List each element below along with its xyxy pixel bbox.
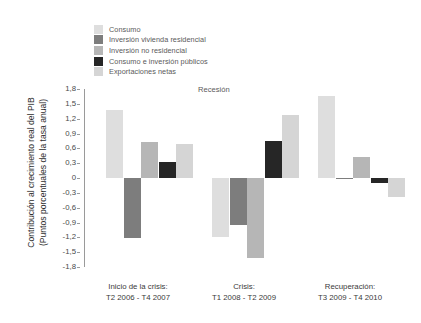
legend-swatch-exportaciones-netas	[94, 67, 103, 76]
bar-5-group-2	[282, 115, 299, 178]
y-axis-tick-mark	[77, 148, 80, 149]
legend-item-inversion-vivienda-residencial: Inversión vivienda residencial	[94, 35, 314, 46]
legend-item-consumo-e-inversion-publicos: Consumo e inversión públicos	[94, 56, 314, 67]
y-axis-tick-label: -1,5	[63, 248, 76, 256]
bar-3-group-2	[247, 178, 264, 258]
y-axis-tick-mark	[77, 119, 80, 120]
bar-5-group-3	[388, 178, 405, 197]
category-label-recuperacion: Recuperación: T3 2009 - T4 2010	[296, 281, 404, 303]
y-axis-tick-label: -1,2	[63, 233, 76, 241]
y-axis-tick-label: 0,3	[65, 159, 76, 167]
bar-4-group-3	[371, 178, 388, 183]
bar-3-group-3	[353, 157, 370, 178]
bar-4-group-1	[159, 162, 176, 178]
bar-5-group-1	[176, 144, 193, 178]
y-axis-tick-mark	[77, 267, 80, 268]
y-axis-tick-mark	[77, 134, 80, 135]
plot-area	[84, 89, 400, 267]
bar-1-group-2	[212, 178, 229, 237]
chart-legend: Consumo Inversión vivienda residencial I…	[94, 24, 314, 77]
bar-1-group-3	[318, 96, 335, 178]
legend-swatch-inversion-no-residencial	[94, 46, 103, 55]
category-label-inicio-de-la-crisis: Inicio de la crisis: T2 2006 - T4 2007	[84, 281, 192, 303]
y-axis-tick-label: -0,6	[63, 204, 76, 212]
y-axis-tick-label: 0	[72, 174, 76, 182]
y-axis-tick-label: 0,6	[65, 144, 76, 152]
category-label-line2: T1 2008 - T2 2009	[190, 292, 298, 303]
y-axis-tick-mark	[77, 252, 80, 253]
y-axis-tick-label: 0,9	[65, 130, 76, 138]
y-axis-title-container: Contribución al crecimiento real del PIB…	[0, 0, 34, 323]
bar-4-group-2	[265, 141, 282, 178]
y-axis-tick-mark	[77, 208, 80, 209]
category-label-line1: Crisis:	[190, 281, 298, 292]
legend-item-exportaciones-netas: Exportaciones netas	[94, 66, 314, 77]
y-axis-tick-mark	[77, 89, 80, 90]
y-axis-line	[84, 89, 85, 267]
legend-label-consumo: Consumo	[109, 25, 141, 34]
y-axis-tick-label: 1,5	[65, 100, 76, 108]
legend-label-exportaciones-netas: Exportaciones netas	[109, 67, 176, 76]
y-axis-tick-label: 1,8	[65, 85, 76, 93]
y-axis-tick-mark	[77, 104, 80, 105]
legend-item-consumo: Consumo	[94, 24, 314, 35]
bar-1-group-1	[106, 110, 123, 178]
y-axis-tick-label: 1,2	[65, 115, 76, 123]
legend-swatch-inversion-vivienda-residencial	[94, 35, 103, 44]
y-axis-tick-label: -1,8	[63, 263, 76, 271]
y-axis-title-line1: Contribución al crecimiento real del PIB	[26, 97, 36, 247]
y-axis-tick-label: -0,9	[63, 219, 76, 227]
bar-2-group-1	[124, 178, 141, 238]
legend-item-inversion-no-residencial: Inversión no residencial	[94, 45, 314, 56]
category-label-line2: T2 2006 - T4 2007	[84, 292, 192, 303]
bar-2-group-3	[336, 178, 353, 179]
chart-figure: Consumo Inversión vivienda residencial I…	[0, 0, 421, 323]
bar-3-group-1	[141, 142, 158, 178]
bar-2-group-2	[230, 178, 247, 225]
legend-swatch-consumo-e-inversion-publicos	[94, 57, 103, 66]
y-axis-tick-mark	[77, 178, 80, 179]
category-label-line1: Recuperación:	[296, 281, 404, 292]
y-axis-tick-mark	[77, 223, 80, 224]
y-axis-tick-mark	[77, 237, 80, 238]
legend-label-consumo-e-inversion-publicos: Consumo e inversión públicos	[109, 57, 208, 66]
category-label-line2: T3 2009 - T4 2010	[296, 292, 404, 303]
legend-label-inversion-no-residencial: Inversión no residencial	[109, 46, 187, 55]
y-axis-tick-mark	[77, 163, 80, 164]
legend-swatch-consumo	[94, 25, 103, 34]
y-axis-tick-label: -0,3	[63, 189, 76, 197]
legend-label-inversion-vivienda-residencial: Inversión vivienda residencial	[109, 35, 206, 44]
y-axis-tick-mark	[77, 193, 80, 194]
category-label-crisis: Crisis: T1 2008 - T2 2009	[190, 281, 298, 303]
y-axis-ticks: 1,81,51,20,90,60,30-0,3-0,6-0,9-1,2-1,5-…	[44, 89, 80, 267]
category-label-line1: Inicio de la crisis:	[84, 281, 192, 292]
